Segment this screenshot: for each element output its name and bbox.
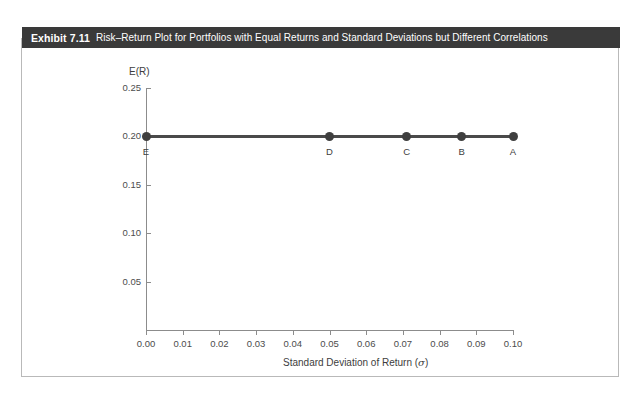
y-tick-mark <box>146 282 151 283</box>
y-tick-label: 0.05 <box>109 276 141 287</box>
x-tick-label: 0.01 <box>163 338 203 349</box>
y-tick-mark <box>146 88 151 89</box>
y-axis-title: E(R) <box>129 66 150 77</box>
data-point-label-b: B <box>447 146 477 157</box>
x-tick-label: 0.02 <box>199 338 239 349</box>
x-tick-mark <box>330 330 331 335</box>
y-tick-label: 0.25 <box>109 82 141 93</box>
x-tick-mark <box>219 330 220 335</box>
y-axis-line <box>146 88 147 330</box>
x-tick-mark <box>256 330 257 335</box>
data-point-e <box>142 132 151 141</box>
x-tick-mark <box>366 330 367 335</box>
x-axis-title-close: ) <box>425 357 428 368</box>
x-tick-label: 0.10 <box>493 338 533 349</box>
data-point-label-e: E <box>131 146 161 157</box>
y-tick-label: 0.10 <box>109 227 141 238</box>
data-point-c <box>402 132 411 141</box>
x-tick-label: 0.04 <box>273 338 313 349</box>
chart-plot-area: E(R) Standard Deviation of Return (σ) 0.… <box>21 38 619 377</box>
x-tick-mark <box>293 330 294 335</box>
y-tick-label: 0.15 <box>109 179 141 190</box>
x-tick-label: 0.09 <box>456 338 496 349</box>
x-tick-label: 0.03 <box>236 338 276 349</box>
data-point-d <box>325 132 334 141</box>
data-point-label-c: C <box>392 146 422 157</box>
x-axis-title: Standard Deviation of Return (σ) <box>283 357 428 368</box>
x-tick-label: 0.06 <box>346 338 386 349</box>
y-tick-mark <box>146 185 151 186</box>
x-axis-title-text: Standard Deviation of Return ( <box>283 357 418 368</box>
x-tick-mark <box>403 330 404 335</box>
x-tick-mark <box>513 330 514 335</box>
data-point-label-d: D <box>315 146 345 157</box>
x-tick-label: 0.08 <box>420 338 460 349</box>
x-tick-label: 0.07 <box>383 338 423 349</box>
y-tick-label: 0.20 <box>109 130 141 141</box>
x-tick-label: 0.00 <box>126 338 166 349</box>
sigma-symbol: σ <box>418 357 425 368</box>
x-tick-mark <box>476 330 477 335</box>
x-tick-mark <box>440 330 441 335</box>
data-point-a <box>509 132 518 141</box>
x-tick-mark <box>183 330 184 335</box>
x-tick-label: 0.05 <box>310 338 350 349</box>
y-tick-mark <box>146 233 151 234</box>
exhibit-figure: Exhibit 7.11 Risk–Return Plot for Portfo… <box>0 0 642 403</box>
x-tick-mark <box>146 330 147 335</box>
data-point-b <box>457 132 466 141</box>
data-point-label-a: A <box>498 146 528 157</box>
